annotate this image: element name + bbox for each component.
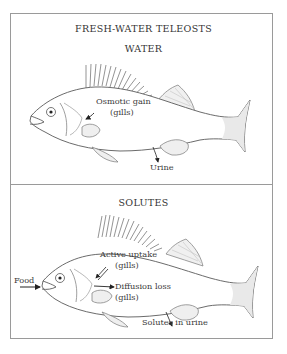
- label-diffusion-loss: Diffusion loss: [115, 281, 171, 291]
- label-osmotic-gain-gills: (gills): [110, 107, 134, 117]
- label-osmotic-gain: Osmotic gain: [96, 96, 151, 106]
- label-food: Food: [14, 275, 34, 285]
- label-active-uptake: Active uptake: [100, 249, 157, 259]
- label-diffusion-loss-gills: (gills): [115, 292, 139, 302]
- fish-illustration-water: [0, 0, 287, 184]
- dorsal-spines-icon: [98, 215, 162, 251]
- label-active-uptake-gills: (gills): [115, 260, 139, 270]
- label-urine: Urine: [150, 162, 174, 172]
- label-solutes-in-urine: Solutes in urine: [142, 317, 208, 327]
